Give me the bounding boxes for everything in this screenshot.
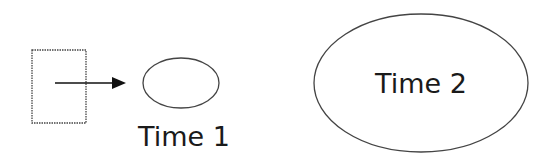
source-box	[32, 50, 86, 123]
time1-label: Time 1	[137, 121, 230, 152]
time1-ellipse	[143, 58, 219, 108]
arrow-right-icon	[55, 77, 126, 89]
time2-label: Time 2	[374, 68, 467, 99]
diagram-canvas: Time 1 Time 2	[0, 0, 558, 161]
